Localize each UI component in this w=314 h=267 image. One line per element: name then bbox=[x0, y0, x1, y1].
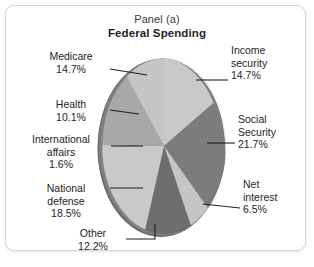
label-national-defense-line2: defense bbox=[24, 195, 108, 208]
label-international-affairs: International affairs 1.6% bbox=[14, 133, 108, 171]
figure-root: Panel (a) Federal Spending bbox=[0, 0, 314, 267]
label-income-security-line1: Income bbox=[231, 44, 267, 57]
label-health: Health 10.1% bbox=[34, 98, 108, 123]
label-medicare-value: 14.7% bbox=[34, 63, 108, 76]
label-other: Other 12.2% bbox=[62, 227, 124, 252]
label-social-security-line2: Security bbox=[238, 126, 276, 139]
label-net-interest-value: 6.5% bbox=[243, 203, 277, 216]
label-national-defense-value: 18.5% bbox=[24, 207, 108, 220]
label-net-interest: Net interest 6.5% bbox=[243, 178, 277, 216]
label-health-line1: Health bbox=[34, 98, 108, 111]
label-international-affairs-line1: International bbox=[14, 133, 108, 146]
label-other-line1: Other bbox=[62, 227, 124, 240]
label-international-affairs-value: 1.6% bbox=[14, 158, 108, 171]
label-medicare: Medicare 14.7% bbox=[34, 50, 108, 75]
label-national-defense: National defense 18.5% bbox=[24, 182, 108, 220]
label-social-security-value: 21.7% bbox=[238, 138, 276, 151]
label-net-interest-line1: Net bbox=[243, 178, 277, 191]
label-income-security-line2: security bbox=[231, 57, 267, 70]
label-social-security: Social Security 21.7% bbox=[238, 113, 276, 151]
label-health-value: 10.1% bbox=[34, 111, 108, 124]
label-national-defense-line1: National bbox=[24, 182, 108, 195]
label-social-security-line1: Social bbox=[238, 113, 276, 126]
label-other-value: 12.2% bbox=[62, 240, 124, 253]
label-medicare-line1: Medicare bbox=[34, 50, 108, 63]
label-income-security: Income security 14.7% bbox=[231, 44, 267, 82]
label-income-security-value: 14.7% bbox=[231, 69, 267, 82]
label-international-affairs-line2: affairs bbox=[14, 146, 108, 159]
label-net-interest-line2: interest bbox=[243, 191, 277, 204]
